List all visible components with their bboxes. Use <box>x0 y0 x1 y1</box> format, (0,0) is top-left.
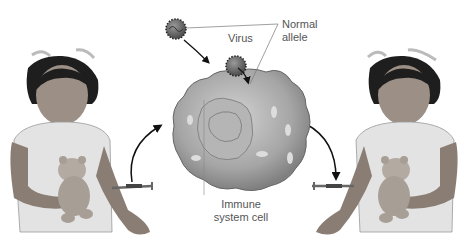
right-child-figure <box>316 50 458 235</box>
virus-top-icon <box>166 19 186 39</box>
normal-allele-line2: allele <box>282 31 317 44</box>
arrow-virus-to-cell <box>184 40 208 62</box>
virus-label: Virus <box>228 32 253 45</box>
immune-cell-illustration <box>173 69 310 191</box>
right-syringe-icon <box>312 182 354 190</box>
gene-therapy-diagram: Virus Normal allele Immune system cell <box>0 0 468 249</box>
arrow-from-cell <box>306 124 336 178</box>
arrow-to-cell <box>131 126 160 182</box>
immune-cell-label: Immune system cell <box>196 198 286 224</box>
left-child-figure <box>10 50 150 235</box>
immune-cell-line1: Immune <box>196 198 286 211</box>
immune-cell-line2: system cell <box>196 211 286 224</box>
normal-allele-label: Normal allele <box>282 18 317 44</box>
normal-allele-line1: Normal <box>282 18 317 31</box>
virus-label-text: Virus <box>228 32 253 44</box>
